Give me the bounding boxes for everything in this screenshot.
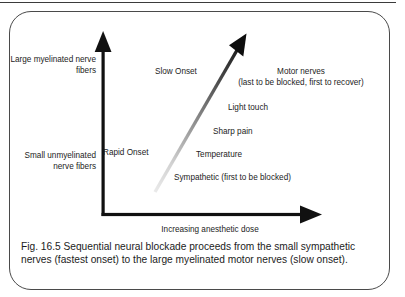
sharp-pain-label: Sharp pain — [213, 127, 253, 138]
light-touch-label: Light touch — [228, 103, 268, 114]
blockade-gradient-arrowhead — [229, 34, 247, 57]
x-axis-label: Increasing anesthetic dose — [140, 225, 280, 236]
figure-caption: Fig. 16.5 Sequential neural blockade pro… — [21, 240, 371, 266]
y-axis-line — [102, 45, 105, 216]
x-axis-arrowhead — [300, 206, 322, 224]
temperature-label: Temperature — [196, 150, 242, 161]
slow-onset-annotation: Slow Onset — [155, 67, 197, 78]
x-axis-line — [102, 213, 310, 216]
y-axis-arrowhead — [95, 31, 112, 52]
rapid-onset-annotation: Rapid Onset — [103, 148, 149, 159]
motor-nerves-title: Motor nerves — [277, 67, 325, 76]
y-axis-bottom-label: Small unmyelinated nerve fibers — [8, 151, 96, 172]
y-axis-top-label: Large myelinated nerve fibers — [8, 55, 96, 76]
motor-nerves-subtitle: (last to be blocked, first to recover) — [238, 78, 364, 87]
sympathetic-label: Sympathetic (first to be blocked) — [174, 173, 291, 184]
motor-nerves-label: Motor nerves (last to be blocked, first … — [216, 67, 386, 88]
